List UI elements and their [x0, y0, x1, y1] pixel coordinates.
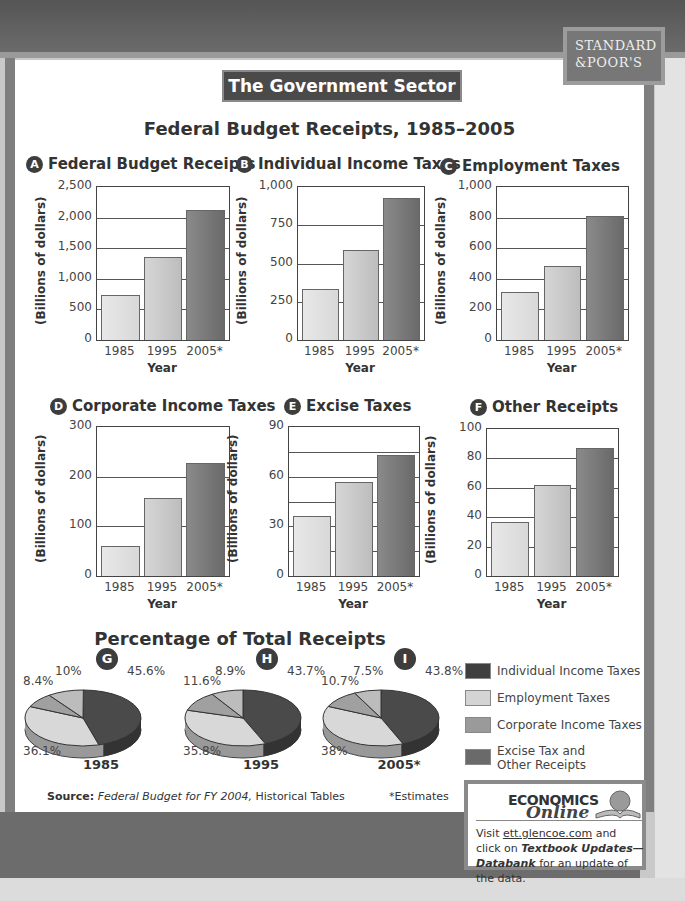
globe-book-icon: [590, 788, 642, 820]
y-axis-label: (Billions of dollars): [235, 196, 249, 325]
econ-instructions: Visit ett.glencoe.com and click on Textb…: [476, 826, 644, 886]
x-tick-label: 2005*: [182, 580, 228, 594]
bar-1995: [544, 266, 582, 340]
bar-plot-area: [486, 428, 619, 577]
pie-percent-ind: 43.7%: [287, 664, 325, 678]
bar-plot-area: [96, 426, 230, 577]
y-tick-label: 20: [442, 538, 482, 552]
standard-poors-badge: STANDARD &POOR'S: [563, 27, 665, 85]
bar-1985: [491, 522, 529, 576]
chart-title-text: Individual Income Taxes: [258, 155, 461, 173]
y-tick-label: 0: [52, 567, 92, 581]
y-tick-label: 400: [452, 270, 492, 284]
x-axis-label: Year: [323, 597, 383, 611]
chart-title: CEmployment Taxes: [440, 157, 620, 175]
x-axis-label: Year: [522, 597, 582, 611]
chart-title: EExcise Taxes: [284, 397, 411, 415]
y-tick-label: 30: [244, 517, 284, 531]
gridline: [289, 452, 419, 453]
x-tick-label: 1995: [337, 344, 383, 358]
x-axis-label: Year: [330, 361, 390, 375]
pie-percent-emp: 36.1%: [23, 744, 61, 758]
y-tick-label: 100: [52, 517, 92, 531]
economics-online-box: ECONOMICS Online Visit ett.glencoe.com a…: [464, 780, 646, 870]
bar-1985: [501, 292, 539, 340]
chart-letter-badge: E: [284, 398, 301, 415]
y-tick-label: 40: [442, 508, 482, 522]
x-axis-label: Year: [132, 361, 192, 375]
pie-letter-badge: H: [256, 648, 278, 670]
chart-title: FOther Receipts: [470, 398, 618, 416]
y-tick-label: 0: [52, 331, 92, 345]
y-tick-label: 800: [452, 209, 492, 223]
chart-title-text: Excise Taxes: [306, 397, 411, 415]
x-axis-label: Year: [532, 361, 592, 375]
chart-letter-badge: F: [470, 399, 487, 416]
econ-divider: [476, 820, 642, 821]
bar-1995: [534, 485, 572, 576]
y-tick-label: 0: [253, 331, 293, 345]
bar-1995: [144, 498, 182, 576]
x-tick-label: 1985: [496, 344, 542, 358]
y-axis-label: (Billions of dollars): [34, 434, 48, 563]
chart-title-text: Employment Taxes: [462, 157, 620, 175]
y-tick-label: 200: [52, 468, 92, 482]
x-tick-label: 2005*: [182, 344, 228, 358]
x-tick-label: 1985: [296, 344, 342, 358]
y-axis-label: (Billions of dollars): [34, 196, 48, 325]
online-logo: Online: [526, 802, 589, 822]
legend-swatch: [465, 663, 491, 679]
y-tick-label: 500: [52, 300, 92, 314]
bar-plot-area: [297, 186, 425, 341]
page-title: Federal Budget Receipts, 1985–2005: [0, 118, 659, 139]
glencoe-link[interactable]: ett.glencoe.com: [503, 827, 592, 840]
y-tick-label: 2,000: [52, 209, 92, 223]
y-tick-label: 200: [452, 300, 492, 314]
x-axis-label: Year: [132, 597, 192, 611]
pie-percent-ind: 45.6%: [127, 664, 165, 678]
bar-2005: [586, 216, 624, 340]
chart-title: BIndividual Income Taxes: [236, 155, 461, 173]
pie-letter-badge: I: [394, 648, 416, 670]
bar-1985: [302, 289, 339, 340]
bar-2005: [383, 198, 420, 340]
y-tick-label: 0: [442, 567, 482, 581]
pie-year-label: 1995: [231, 757, 291, 772]
badge-line2: &POOR'S: [575, 54, 661, 71]
y-tick-label: 1,000: [253, 178, 293, 192]
bar-plot-area: [96, 186, 230, 341]
bar-1995: [144, 257, 182, 340]
y-tick-label: 100: [442, 420, 482, 434]
x-tick-label: 1985: [96, 580, 142, 594]
bar-1985: [101, 546, 139, 576]
right-border: [644, 82, 654, 812]
pie-percent-other: 10%: [55, 664, 82, 678]
legend-label: Corporate Income Taxes: [497, 718, 642, 732]
chart-title-text: Federal Budget Receipts: [48, 155, 256, 173]
bar-1985: [293, 516, 331, 576]
chart-title-text: Corporate Income Taxes: [72, 397, 276, 415]
y-axis-label: (Billions of dollars): [424, 435, 438, 564]
x-tick-label: 1995: [330, 580, 376, 594]
x-tick-label: 1985: [288, 580, 334, 594]
source-rest: Historical Tables: [252, 790, 345, 803]
chart-letter-badge: D: [50, 398, 67, 415]
pie-section-title: Percentage of Total Receipts: [20, 628, 460, 649]
x-tick-label: 1985: [96, 344, 142, 358]
y-tick-label: 0: [244, 567, 284, 581]
x-tick-label: 1995: [139, 344, 185, 358]
pie-year-label: 1985: [71, 757, 131, 772]
chart-title: AFederal Budget Receipts: [26, 155, 256, 173]
y-tick-label: 500: [253, 255, 293, 269]
chart-title-text: Other Receipts: [492, 398, 618, 416]
y-tick-label: 0: [452, 331, 492, 345]
x-tick-label: 2005*: [378, 344, 424, 358]
pie-percent-emp: 35.8%: [183, 744, 221, 758]
left-border: [5, 58, 15, 814]
chart-letter-badge: C: [440, 158, 457, 175]
pie-letter-badge: G: [96, 648, 118, 670]
y-tick-label: 750: [253, 216, 293, 230]
y-axis-label: (Billions of dollars): [226, 434, 240, 563]
pie-percent-corp: 11.6%: [183, 674, 221, 688]
y-tick-label: 90: [244, 418, 284, 432]
